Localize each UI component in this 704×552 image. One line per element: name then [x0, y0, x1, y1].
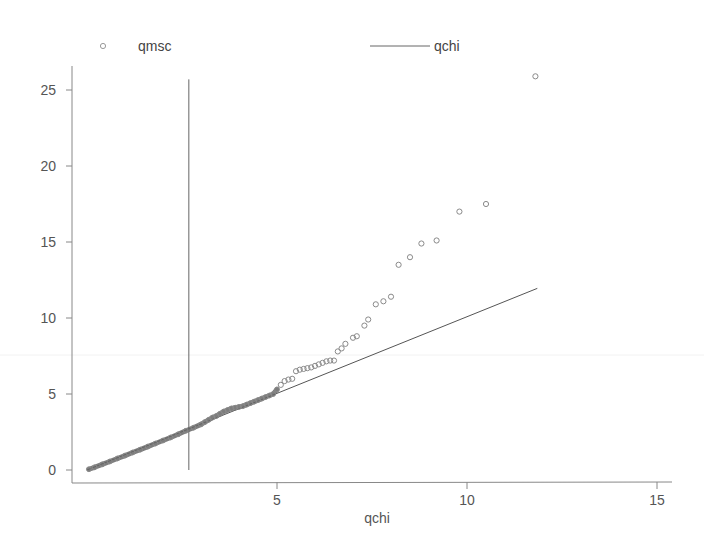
qmsc-point: [533, 74, 538, 79]
legend-marker-qmsc-icon: [100, 43, 105, 48]
x-tick-label: 10: [459, 492, 475, 508]
qmsc-point: [483, 201, 488, 206]
qmsc-point: [419, 241, 424, 246]
qmsc-point: [396, 262, 401, 267]
y-tick-label: 5: [48, 386, 56, 402]
qmsc-point: [362, 323, 367, 328]
qmsc-point: [339, 346, 344, 351]
x-axis: 51015: [72, 482, 672, 508]
legend-label-qmsc: qmsc: [138, 38, 171, 54]
y-axis: 0510152025: [40, 66, 72, 483]
y-tick-label: 20: [40, 158, 56, 174]
qmsc-point: [434, 238, 439, 243]
qmsc-point: [381, 299, 386, 304]
qmsc-point: [407, 255, 412, 260]
y-tick-label: 0: [48, 462, 56, 478]
x-axis-line: [72, 482, 672, 483]
qq-plot: qmsc qchi 0510152025 51015 qchi: [0, 0, 704, 552]
x-tick-label: 15: [649, 492, 665, 508]
y-tick-label: 15: [40, 234, 56, 250]
x-tick-label: 5: [273, 492, 281, 508]
qmsc-point: [457, 209, 462, 214]
legend: qmsc qchi: [100, 38, 459, 54]
qmsc-point: [343, 341, 348, 346]
qmsc-point: [366, 317, 371, 322]
y-tick-label: 25: [40, 82, 56, 98]
qmsc-point: [331, 358, 336, 363]
legend-label-qchi: qchi: [434, 38, 460, 54]
qmsc-point: [388, 294, 393, 299]
y-tick-label: 10: [40, 310, 56, 326]
qmsc-point: [373, 302, 378, 307]
x-axis-title: qchi: [364, 510, 390, 526]
qmsc-points: [87, 74, 539, 472]
